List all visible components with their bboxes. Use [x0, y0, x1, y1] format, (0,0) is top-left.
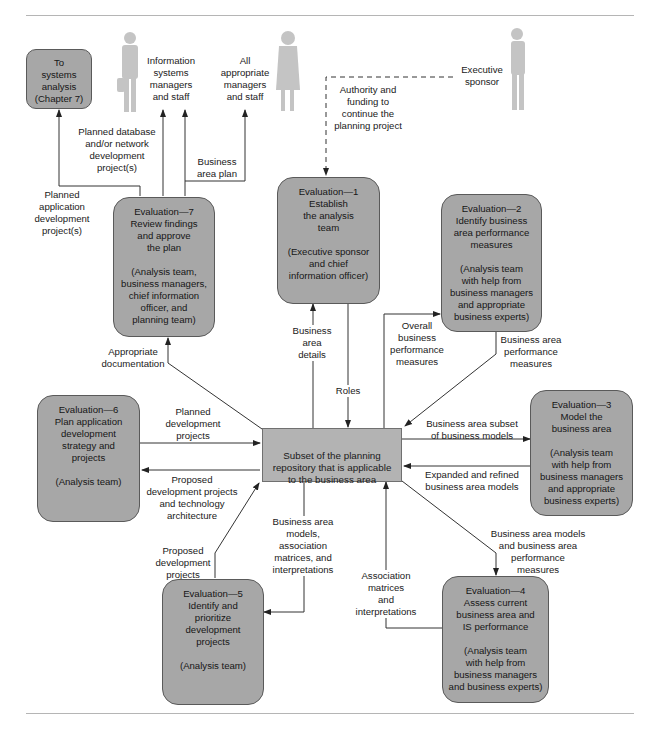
evaluation-1-title: Evaluation—1 Establish the analysis team — [278, 186, 379, 234]
evaluation-4-title: Evaluation—4 Assess current business are… — [443, 585, 548, 633]
evaluation-7-title: Evaluation—7 Review findings and approve… — [114, 206, 214, 254]
evaluation-2-box: Evaluation—2 Identify business area perf… — [441, 194, 542, 332]
ba-perf-measures-label: Business area performance measures — [494, 334, 568, 370]
to-systems-analysis-box: To systems analysis (Chapter 7) — [26, 49, 92, 109]
planned-db-net-label: Planned database and/or network developm… — [72, 126, 162, 174]
business-area-details-label: Business area details — [284, 325, 340, 361]
appropriate-documentation-label: Appropriate documentation — [98, 346, 168, 370]
central-label: Subset of the planning repository that i… — [273, 450, 392, 485]
proposed-dev-tech-label: Proposed development projects and techno… — [140, 474, 244, 522]
is-managers-label: Information systems managers and staff — [140, 55, 202, 103]
evaluation-6-actors: (Analysis team) — [38, 476, 139, 488]
evaluation-3-actors: (Analysis team with help from business m… — [531, 447, 632, 507]
all-managers-label: All appropriate managers and staff — [215, 55, 275, 103]
evaluation-4-box: Evaluation—4 Assess current business are… — [442, 576, 549, 703]
person-silhouette-executive-sponsor — [511, 28, 525, 110]
person-silhouette-is-managers — [117, 32, 138, 112]
evaluation-5-title: Evaluation—5 Identify and prioritize dev… — [163, 588, 263, 648]
overall-perf-label: Overall business performance measures — [386, 320, 448, 368]
evaluation-7-actors: (Analysis team, business managers, chief… — [114, 266, 214, 326]
proposed-dev-label: Proposed development projects — [152, 545, 214, 581]
evaluation-6-box: Evaluation—6 Plan application developmen… — [37, 395, 140, 522]
to-systems-analysis-label: To systems analysis (Chapter 7) — [27, 57, 91, 105]
planning-repository-subset: Subset of the planning repository that i… — [262, 428, 402, 482]
evaluation-5-box: Evaluation—5 Identify and prioritize dev… — [162, 579, 264, 705]
planned-dev-label: Planned development projects — [158, 406, 228, 442]
association-matrices-label: Association matrices and interpretations — [350, 570, 422, 618]
expanded-models-label: Expanded and refined business area model… — [420, 469, 524, 493]
evaluation-6-title: Evaluation—6 Plan application developmen… — [38, 404, 139, 464]
business-area-plan-label: Business area plan — [192, 156, 242, 180]
authority-funding-label: Authority and funding to continue the pl… — [328, 84, 408, 132]
evaluation-3-title: Evaluation—3 Model the business area — [531, 399, 632, 435]
ba-models-perf-label: Business area models and business area p… — [486, 528, 590, 576]
evaluation-7-box: Evaluation—7 Review findings and approve… — [113, 197, 215, 337]
evaluation-2-actors: (Analysis team with help from business m… — [442, 263, 541, 323]
ba-models-assoc-label: Business area models, association matric… — [264, 516, 342, 576]
roles-label: Roles — [332, 385, 364, 397]
executive-sponsor-label: Executive sponsor — [457, 64, 507, 88]
evaluation-1-box: Evaluation—1 Establish the analysis team… — [277, 177, 380, 304]
person-silhouette-all-managers — [276, 31, 300, 111]
planned-app-dev-label: Planned application development project(… — [30, 189, 94, 237]
evaluation-2-title: Evaluation—2 Identify business area perf… — [442, 203, 541, 251]
evaluation-5-actors: (Analysis team) — [163, 660, 263, 672]
flow-ba-models-perf — [402, 481, 496, 575]
ba-subset-models-label: Business area subset of business models — [420, 418, 524, 442]
evaluation-3-box: Evaluation—3 Model the business area (An… — [530, 390, 633, 516]
evaluation-1-actors: (Executive sponsor and chief information… — [278, 246, 379, 282]
evaluation-4-actors: (Analysis team with help from business m… — [443, 645, 548, 693]
